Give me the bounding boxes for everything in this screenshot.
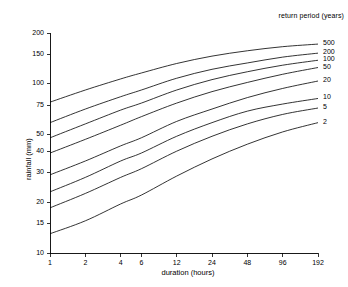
curve-return-period-10 bbox=[50, 98, 318, 191]
y-tick-label: 15 bbox=[12, 219, 44, 226]
series-label-500: 500 bbox=[323, 39, 335, 46]
series-label-5: 5 bbox=[323, 103, 327, 110]
series-label-2: 2 bbox=[323, 118, 327, 125]
tick-marks bbox=[47, 33, 319, 257]
chart-plot-area bbox=[0, 0, 348, 287]
data-curves bbox=[50, 44, 318, 234]
curve-return-period-50 bbox=[50, 68, 318, 154]
y-tick-label: 10 bbox=[12, 249, 44, 256]
y-tick-label: 200 bbox=[12, 29, 44, 36]
series-label-20: 20 bbox=[323, 76, 331, 83]
y-tick-label: 20 bbox=[12, 198, 44, 205]
y-tick-label: 150 bbox=[12, 50, 44, 57]
curve-return-period-5 bbox=[50, 108, 318, 208]
y-tick-label: 75 bbox=[12, 101, 44, 108]
x-tick-label: 96 bbox=[269, 259, 297, 266]
curve-return-period-100 bbox=[50, 60, 318, 138]
x-tick-label: 1 bbox=[36, 259, 64, 266]
curve-return-period-20 bbox=[50, 81, 318, 175]
x-tick-label: 12 bbox=[163, 259, 191, 266]
x-tick-label: 192 bbox=[304, 259, 332, 266]
y-tick-label: 50 bbox=[12, 130, 44, 137]
x-tick-label: 24 bbox=[198, 259, 226, 266]
chart-figure: return period (years) 101520304050751001… bbox=[0, 0, 348, 287]
curve-return-period-2 bbox=[50, 123, 318, 234]
series-label-200: 200 bbox=[323, 48, 335, 55]
x-axis-title: duration (hours) bbox=[118, 268, 258, 277]
series-label-10: 10 bbox=[323, 93, 331, 100]
curve-return-period-500 bbox=[50, 44, 318, 102]
x-tick-label: 48 bbox=[233, 259, 261, 266]
x-tick-label: 2 bbox=[71, 259, 99, 266]
x-tick-label: 6 bbox=[127, 259, 155, 266]
y-axis-title: rainfall (mm) bbox=[24, 138, 33, 180]
series-label-50: 50 bbox=[323, 63, 331, 70]
y-tick-label: 100 bbox=[12, 79, 44, 86]
series-label-100: 100 bbox=[323, 55, 335, 62]
